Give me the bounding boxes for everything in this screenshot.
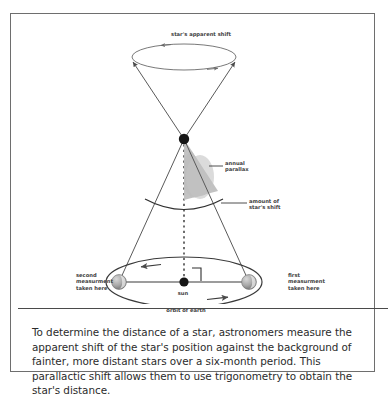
ray-down-left xyxy=(119,139,184,282)
figure-frame: star's apparent shift annual parallax am… xyxy=(10,13,375,372)
label-star-apparent-shift: star's apparent shift xyxy=(159,31,243,37)
label-annual-parallax: annual parallax xyxy=(225,160,285,173)
diagram-svg xyxy=(11,14,374,304)
parallax-diagram: star's apparent shift annual parallax am… xyxy=(11,14,374,304)
sun-point xyxy=(179,277,188,286)
upper-cone-rays xyxy=(133,62,235,139)
earth-sphere-first-position xyxy=(242,275,257,290)
label-amount-of-stars-shift: amount of star's shift xyxy=(249,198,309,211)
label-second-measurement-taken-here: second measurment taken here xyxy=(76,272,131,291)
caption-divider-rule xyxy=(18,308,388,309)
star-point xyxy=(179,134,189,144)
label-sun: sun xyxy=(168,290,198,296)
orbit-arrow-bottom xyxy=(207,297,228,299)
right-angle-marker xyxy=(192,268,201,281)
ray-up-left xyxy=(133,62,184,139)
apparent-shift-ellipse xyxy=(132,44,236,70)
label-first-measurement-taken-here: first measurment taken here xyxy=(288,272,344,291)
ray-up-right xyxy=(184,62,235,139)
orbit-arrow-top xyxy=(141,265,161,267)
annual-parallax-wedge xyxy=(181,139,218,200)
figure-caption: To determine the distance of a star, ast… xyxy=(32,325,372,398)
